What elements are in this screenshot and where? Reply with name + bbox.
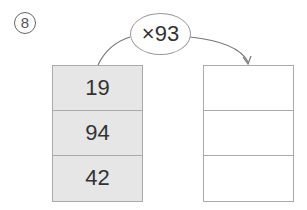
input-cell: 94 bbox=[53, 111, 142, 156]
output-column bbox=[203, 65, 294, 202]
input-arc bbox=[98, 37, 130, 65]
operator-ellipse: ×93 bbox=[130, 13, 191, 55]
answer-cell[interactable] bbox=[204, 111, 293, 156]
answer-cell[interactable] bbox=[204, 66, 293, 111]
answer-cell[interactable] bbox=[204, 156, 293, 201]
input-cell: 19 bbox=[53, 66, 142, 111]
input-cell: 42 bbox=[53, 156, 142, 201]
output-arc bbox=[190, 37, 248, 62]
input-column: 19 94 42 bbox=[52, 65, 143, 202]
